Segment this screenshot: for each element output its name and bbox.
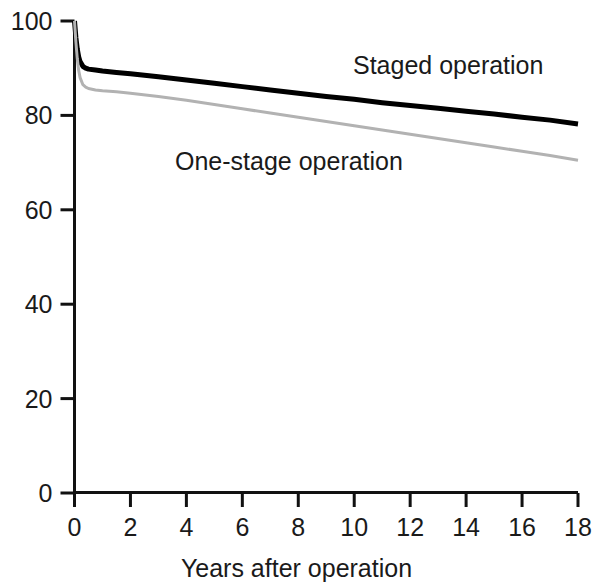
data-series-group [75, 21, 579, 160]
x-tick-label: 16 [508, 515, 536, 540]
y-tick-label: 60 [25, 197, 53, 222]
y-tick-label: 0 [39, 481, 53, 506]
x-tick-label: 12 [396, 515, 424, 540]
x-tick-label: 6 [235, 515, 249, 540]
series-line-one-stage [75, 21, 579, 160]
x-tick-label: 4 [179, 515, 193, 540]
y-tick-label: 80 [25, 103, 53, 128]
y-tick-label: 100 [11, 9, 53, 34]
y-axis-ticks [61, 21, 75, 493]
x-tick-label: 18 [564, 515, 592, 540]
x-tick-label: 10 [340, 515, 368, 540]
x-tick-label: 8 [291, 515, 305, 540]
annotation-staged-operation: Staged operation [353, 53, 543, 78]
x-axis-ticks [75, 493, 579, 507]
x-tick-label: 2 [123, 515, 137, 540]
x-axis-title: Years after operation [0, 556, 593, 581]
annotation-one-stage-operation: One-stage operation [175, 149, 403, 174]
y-tick-label: 20 [25, 386, 53, 411]
y-tick-label: 40 [25, 292, 53, 317]
x-tick-label: 0 [68, 515, 82, 540]
x-tick-label: 14 [452, 515, 480, 540]
